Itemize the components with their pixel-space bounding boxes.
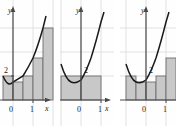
- riemann-rect: [166, 58, 176, 100]
- x-tick-label: 1: [163, 105, 167, 114]
- riemann-rect: [23, 76, 33, 100]
- riemann-rect: [136, 82, 146, 100]
- riemann-rect: [146, 82, 156, 100]
- riemann-rect: [13, 82, 23, 100]
- riemann-rect: [81, 76, 101, 100]
- riemann-sum-figure: y x 0 1 2: [0, 0, 176, 126]
- x-axis-label: x: [44, 104, 49, 113]
- y-tick-label: 2: [84, 66, 88, 75]
- x-tick-label: 1: [30, 105, 34, 114]
- riemann-rect: [156, 76, 166, 100]
- riemann-rect: [126, 76, 136, 100]
- riemann-rect: [61, 76, 81, 100]
- panel-middle-plot: y x 0 1 2: [60, 0, 114, 126]
- y-tick-label: 2: [4, 66, 8, 75]
- panel-left: y x 0 1 2: [0, 0, 54, 126]
- panel-left-plot: y x 0 1 2: [0, 0, 54, 126]
- y-axis-label: y: [7, 6, 12, 15]
- y-axis-label: y: [140, 6, 145, 15]
- riemann-rect: [43, 28, 53, 100]
- y-tick-label: 2: [149, 66, 153, 75]
- x-tick-label: 1: [98, 105, 102, 114]
- panel-right-plot: y 0 1 2: [120, 0, 176, 126]
- panel-right: y 0 1 2: [120, 0, 176, 126]
- riemann-rect: [33, 58, 43, 100]
- origin-label: 0: [142, 105, 146, 114]
- origin-label: 0: [9, 105, 13, 114]
- y-axis-label: y: [75, 6, 80, 15]
- origin-label: 0: [77, 105, 81, 114]
- x-axis-label: x: [104, 104, 109, 113]
- panel-middle: y x 0 1 2: [60, 0, 114, 126]
